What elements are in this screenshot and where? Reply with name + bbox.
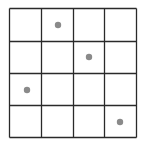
grid-diagram xyxy=(0,0,144,143)
grid-lines xyxy=(10,9,137,138)
grid-dot xyxy=(86,54,92,60)
grid-dot xyxy=(117,119,123,125)
grid-dot xyxy=(55,22,61,28)
grid-dot xyxy=(24,87,30,93)
